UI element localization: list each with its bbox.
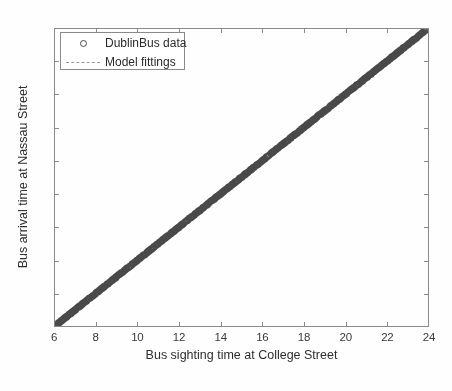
data-series-canvas	[54, 28, 429, 327]
y-axis-title: Bus arrival time at Nassau Street	[16, 28, 34, 327]
x-tick-label: 22	[381, 331, 393, 343]
legend-entry-dublinbus-data: DublinBus data	[61, 33, 184, 52]
x-tick-label: 14	[214, 331, 226, 343]
plot-area	[54, 28, 429, 327]
x-tick-label: 20	[339, 331, 351, 343]
legend-label-dublinbus-data: DublinBus data	[105, 36, 186, 50]
x-axis-title: Bus sighting time at College Street	[54, 348, 429, 362]
legend-label-model-fittings: Model fittings	[105, 55, 176, 69]
x-tick-label: 16	[256, 331, 268, 343]
legend: DublinBus data Model fittings	[60, 32, 185, 70]
x-tick-label: 8	[93, 331, 99, 343]
legend-entry-model-fittings: Model fittings	[61, 52, 184, 71]
x-tick-label: 6	[51, 331, 57, 343]
x-tick-label: 12	[173, 331, 185, 343]
dashed-line-marker-icon	[61, 52, 105, 71]
x-tick-label: 24	[423, 331, 435, 343]
x-tick-label: 18	[298, 331, 310, 343]
scatter-plot-figure: 681012141618202224 681012141618202224 Bu…	[0, 0, 452, 391]
x-tick-label: 10	[131, 331, 143, 343]
circle-marker-icon	[61, 33, 105, 52]
